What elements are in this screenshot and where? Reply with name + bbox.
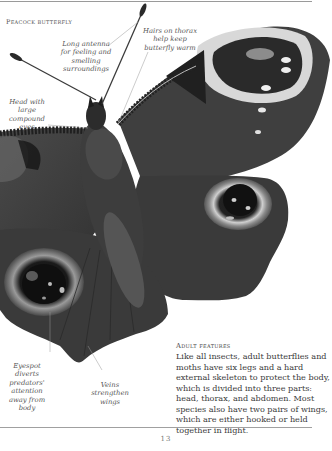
label-hairs-on-thorax: Hairs on thorax help keep butterfly warm xyxy=(140,27,200,52)
page-number: 13 xyxy=(0,435,332,443)
label-eyespot: Eyespot diverts predators' attention awa… xyxy=(2,362,52,412)
label-veins: Veins strengthen wings xyxy=(88,381,132,406)
adult-features-section: Adult features Like all insects, adult b… xyxy=(176,342,332,435)
label-antenna: Long antenna for feeling and smelling su… xyxy=(58,40,114,74)
features-heading: Adult features xyxy=(176,342,332,351)
label-head: Head with large compound eyes xyxy=(2,98,52,132)
features-body-text: Like all insects, adult butterflies and … xyxy=(176,351,332,435)
bottom-rule xyxy=(0,427,312,428)
